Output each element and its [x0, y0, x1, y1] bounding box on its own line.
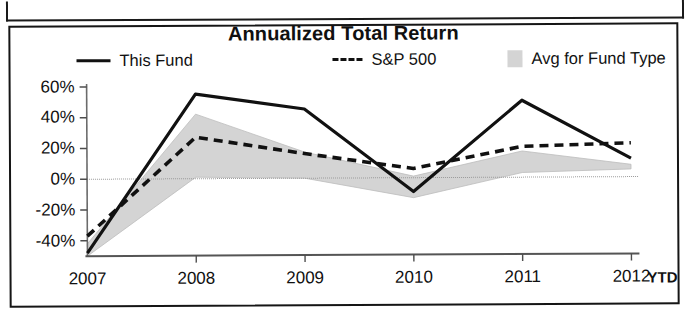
plot-svg: [10, 24, 681, 309]
x-axis-ytd-label: YTD: [648, 268, 678, 285]
y-axis-tick-0: 60%: [5, 77, 75, 97]
annualized-total-return-chart-panel: Annualized Total Return This Fund S&P 50…: [8, 22, 679, 307]
plot-area: 60%40%20%0%-20%-40% 20072008200920102011…: [10, 24, 677, 305]
x-axis-tick-2009: 2009: [270, 268, 340, 288]
x-axis-tick-2007: 2007: [53, 269, 123, 289]
y-axis-tick-1: 40%: [5, 108, 75, 128]
x-axis-tick-2011: 2011: [488, 267, 558, 287]
x-axis-tick-2008: 2008: [161, 268, 231, 288]
y-axis-tick-2: 20%: [5, 139, 75, 159]
y-axis-tick-4: -20%: [5, 200, 75, 220]
y-axis-tick-5: -40%: [5, 231, 75, 251]
x-axis-tick-2010: 2010: [379, 267, 449, 287]
scanned-page-border-strip: [6, 0, 684, 21]
y-axis-tick-3: 0%: [5, 169, 75, 189]
